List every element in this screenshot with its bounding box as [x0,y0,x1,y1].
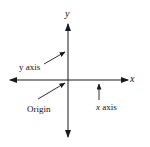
y-axis-annotation-word: axis [24,62,41,72]
y-axis-annotation: y axis [19,63,40,72]
y-axis-pointer-arrow [44,52,65,64]
x-axis-end-label: x [130,74,134,84]
x-axis-annotation: x axis [96,103,117,112]
origin-pointer-arrow [38,83,65,99]
y-axis-end-label: y [65,9,69,19]
coordinate-axes-diagram [0,0,150,147]
x-axis-annotation-word: axis [100,102,117,112]
origin-annotation: Origin [27,105,51,114]
